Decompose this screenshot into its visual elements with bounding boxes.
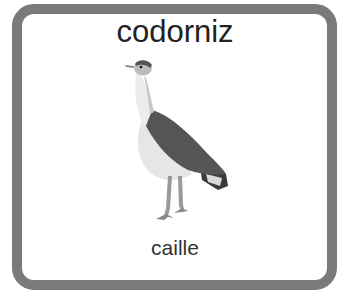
bird-illustration [122, 56, 237, 228]
card-title: codorniz [0, 14, 350, 50]
card-subtitle: caille [0, 236, 350, 260]
